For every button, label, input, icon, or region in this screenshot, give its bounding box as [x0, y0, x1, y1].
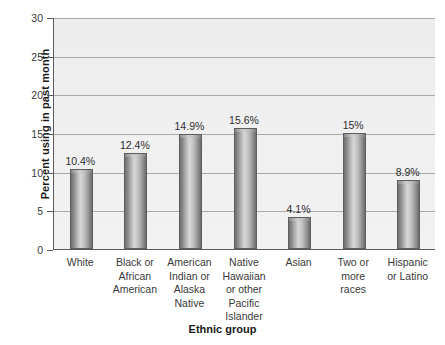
y-tick-label: 20 [0, 90, 43, 101]
y-tick-label: 25 [0, 52, 43, 63]
bar-top-cap [71, 170, 92, 173]
bar-value-label: 14.9% [159, 121, 219, 132]
y-tick-mark [47, 57, 53, 58]
bar-value-label: 15% [323, 120, 383, 131]
bar-top-cap [180, 135, 201, 138]
bar[interactable] [124, 153, 147, 249]
y-tick-label: 15 [0, 129, 43, 140]
bar-value-label: 4.1% [269, 204, 329, 215]
bar[interactable] [397, 180, 420, 249]
bar[interactable] [343, 133, 366, 249]
bar[interactable] [234, 128, 257, 249]
x-axis-title: Ethnic group [0, 323, 445, 335]
x-category-label-line: or Latino [373, 270, 443, 284]
bar-top-cap [398, 181, 419, 184]
bar-top-cap [235, 129, 256, 132]
x-category-label-line: races [318, 283, 388, 297]
y-tick-mark [47, 95, 53, 96]
y-tick-label: 30 [0, 13, 43, 24]
bar-value-label: 12.4% [105, 140, 165, 151]
bar-top-cap [125, 154, 146, 157]
x-category-label-line: or other [209, 283, 279, 297]
x-category-label-line: Islander [209, 310, 279, 324]
x-category-label-line: Hawaiian [209, 270, 279, 284]
bar[interactable] [70, 169, 93, 249]
bar-value-label: 15.6% [214, 115, 274, 126]
bar[interactable] [288, 217, 311, 249]
bar-chart-figure: Percent using in past month 302520151050… [0, 0, 445, 345]
bar-value-label: 10.4% [50, 156, 110, 167]
y-tick-mark [47, 250, 53, 251]
y-tick-label: 10 [0, 168, 43, 179]
y-tick-mark [47, 173, 53, 174]
y-tick-mark [47, 211, 53, 212]
y-tick-mark [47, 134, 53, 135]
x-category-label-line: Pacific [209, 297, 279, 311]
bar-top-cap [344, 134, 365, 137]
gridline [54, 18, 435, 19]
y-tick-label: 0 [0, 245, 43, 256]
gridline [54, 95, 435, 96]
x-category-label: Hispanicor Latino [373, 256, 443, 283]
y-tick-label: 5 [0, 206, 43, 217]
bar-value-label: 8.9% [378, 167, 438, 178]
gridline [54, 57, 435, 58]
x-category-label-line: Hispanic [373, 256, 443, 270]
plot-area [53, 18, 435, 250]
y-tick-mark [47, 18, 53, 19]
bar[interactable] [179, 134, 202, 249]
bar-top-cap [289, 218, 310, 221]
